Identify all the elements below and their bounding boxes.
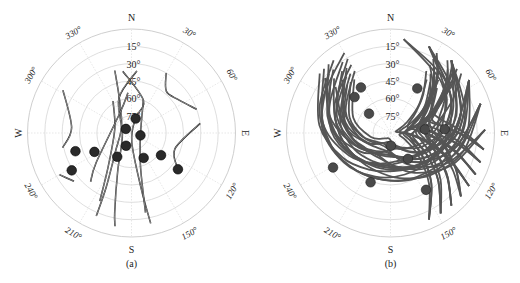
cardinal-label-w: W	[272, 128, 283, 138]
azimuth-gridline	[132, 81, 222, 133]
satellite-track	[337, 60, 457, 157]
satellite-marker	[139, 153, 149, 163]
satellite-marker	[403, 154, 413, 164]
elevation-label: 30°	[386, 59, 400, 70]
azimuth-label: 240°	[22, 181, 39, 201]
cardinal-label-s: S	[129, 244, 135, 255]
satellite-track-highlight	[59, 175, 74, 182]
satellite-marker	[364, 109, 374, 119]
azimuth-label: 60°	[483, 67, 498, 83]
azimuth-label: 300°	[22, 65, 40, 86]
cardinal-label-n: N	[128, 12, 135, 23]
elevation-label: 30°	[127, 59, 141, 70]
satellite-marker	[386, 141, 396, 151]
azimuth-label: 210°	[64, 225, 84, 242]
satellite-marker	[440, 124, 450, 134]
satellite-marker	[350, 92, 360, 102]
satellite-track-highlight	[165, 73, 196, 109]
azimuth-label: 150°	[439, 225, 459, 242]
satellite-marker	[356, 83, 366, 93]
skyplot-panel-a: 15°30°45°60°75°NESW30°60°120°150°210°240…	[13, 12, 251, 270]
cardinal-label-n: N	[387, 12, 394, 23]
cardinal-label-e: E	[240, 130, 251, 136]
satellite-marker	[71, 146, 81, 156]
azimuth-label: 120°	[482, 181, 499, 201]
panel-caption: (a)	[126, 258, 137, 270]
satellite-marker	[328, 163, 338, 173]
elevation-label: 45°	[386, 76, 400, 87]
satellite-marker	[156, 150, 166, 160]
azimuth-label: 300°	[281, 65, 299, 86]
cardinal-label-w: W	[13, 128, 24, 138]
satellite-track	[165, 73, 196, 109]
satellite-marker	[131, 114, 141, 124]
elevation-label: 15°	[386, 41, 400, 52]
elevation-label: 60°	[127, 93, 141, 104]
elevation-label: 15°	[127, 41, 141, 52]
satellite-marker	[420, 125, 430, 135]
satellite-track-highlight	[174, 123, 200, 169]
satellite-marker	[173, 164, 183, 174]
satellite-marker	[121, 124, 131, 134]
skyplot-panel-b: 15°30°45°60°75°NESW30°60°120°150°210°240…	[272, 12, 510, 270]
skyplot-figure: 15°30°45°60°75°NESW30°60°120°150°210°240…	[0, 0, 520, 283]
cardinal-label-s: S	[388, 244, 394, 255]
satellite-marker	[136, 131, 146, 141]
satellite-track	[174, 123, 200, 169]
satellite-marker	[90, 147, 100, 157]
azimuth-label: 120°	[223, 181, 240, 201]
satellite-marker	[366, 177, 376, 187]
satellite-marker	[421, 185, 431, 195]
cardinal-label-e: E	[499, 130, 510, 136]
azimuth-label: 30°	[440, 25, 457, 41]
azimuth-label: 150°	[180, 225, 200, 242]
azimuth-label: 60°	[224, 67, 239, 83]
satellite-marker	[67, 166, 77, 176]
panel-caption: (b)	[385, 258, 397, 270]
azimuth-label: 330°	[322, 24, 343, 42]
satellite-marker	[412, 84, 422, 94]
azimuth-label: 30°	[181, 25, 198, 41]
satellite-marker	[112, 152, 122, 162]
azimuth-label: 330°	[63, 24, 84, 42]
elevation-label: 60°	[386, 93, 400, 104]
azimuth-label: 210°	[323, 225, 343, 242]
elevation-label: 75°	[386, 111, 400, 122]
satellite-marker	[121, 141, 131, 151]
azimuth-label: 240°	[281, 181, 298, 201]
